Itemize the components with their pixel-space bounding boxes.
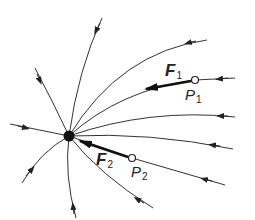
- point-p2: [129, 155, 136, 162]
- label-p2: P2: [131, 163, 148, 182]
- label-p1-letter: P: [185, 86, 195, 103]
- field-line-bottom: [68, 136, 76, 218]
- direction-arrows: [18, 23, 228, 214]
- label-f1: F1: [165, 61, 182, 81]
- label-f1-sub: 1: [176, 70, 182, 81]
- label-f2-sub: 2: [107, 159, 113, 170]
- label-p2-sub: 2: [142, 171, 148, 182]
- field-line-top: [69, 18, 102, 136]
- point-p1: [192, 77, 199, 84]
- field-lines: [10, 18, 235, 218]
- label-f2-letter: F: [96, 150, 106, 169]
- point-charge: [64, 131, 75, 142]
- field-line-right-2: [69, 135, 233, 149]
- arrow-icon: [96, 23, 100, 31]
- label-f2: F2: [96, 150, 113, 170]
- label-p2-letter: P: [131, 163, 141, 180]
- label-p1-sub: 1: [196, 94, 202, 105]
- label-p1: P1: [185, 86, 202, 105]
- field-line-upper-left: [35, 68, 69, 136]
- arrow-icon: [204, 179, 212, 181]
- arrow-icon: [73, 206, 74, 214]
- field-diagram: [0, 0, 255, 220]
- field-line-lower-left: [22, 136, 69, 183]
- label-f1-letter: F: [165, 61, 175, 80]
- arrow-icon: [212, 145, 220, 146]
- field-line-right-1: [69, 115, 235, 136]
- arrow-icon: [26, 169, 32, 176]
